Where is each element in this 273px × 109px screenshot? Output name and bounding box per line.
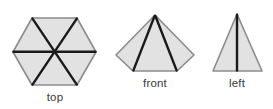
view-top [13,18,96,85]
view-label-top: top [27,91,83,103]
view-label-front: front [127,77,183,89]
front-pentagon-outline [116,15,194,71]
view-front [116,15,194,71]
view-label-left: left [211,77,263,89]
view-left [213,14,262,71]
